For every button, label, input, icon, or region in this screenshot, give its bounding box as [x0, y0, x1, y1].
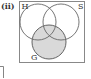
- set-h-label: H: [22, 2, 29, 11]
- venn-diagram: (ii) H S G: [0, 0, 91, 78]
- figure-label: (ii): [1, 1, 15, 11]
- bracket-mark: [0, 67, 4, 79]
- set-s-label: S: [78, 2, 83, 11]
- set-g-label: G: [31, 53, 37, 62]
